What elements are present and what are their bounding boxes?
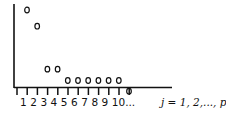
tick-label: 1 [20,96,27,108]
data-point [35,23,40,29]
tick-label: 3 [40,96,47,108]
data-point [45,66,50,72]
x-axis-label: j = 1, 2,..., p [159,96,226,108]
tick-label: 8 [91,96,98,108]
tick-labels: 12345678910... [20,96,135,108]
data-point [66,78,71,84]
tick-label: 5 [61,96,68,108]
data-point [106,78,111,84]
tick-label: 9 [102,96,109,108]
tick-label: 2 [30,96,37,108]
data-point [117,78,122,84]
data-point [25,7,30,13]
data-points [25,7,132,94]
tick-label: 7 [81,96,88,108]
scree-plot: 12345678910... j = 1, 2,..., p [0,0,226,121]
data-point [86,78,91,84]
tick-label: 4 [51,96,58,108]
data-point [76,78,81,84]
tick-label: 6 [71,96,78,108]
tick-label: 10... [112,96,135,108]
x-ticks [17,88,129,95]
data-point [96,78,101,84]
data-point [55,66,60,72]
